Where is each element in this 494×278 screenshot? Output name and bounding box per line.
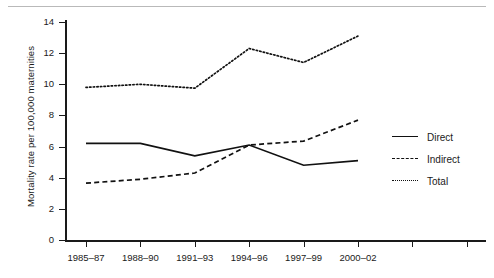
dashed-line-icon [392,154,418,164]
series-line-total [86,36,358,88]
chart-figure: Mortality rate per 100,000 maternities 0… [0,0,494,278]
legend-item-direct[interactable]: Direct [392,126,492,148]
chart-legend: DirectIndirectTotal [392,126,492,192]
solid-line-icon [392,132,418,142]
legend-item-label: Direct [427,132,453,143]
legend-item-label: Total [427,176,448,187]
dotted-line-icon [392,176,418,186]
legend-item-label: Indirect [427,154,460,165]
series-line-indirect [86,120,358,183]
series-line-direct [86,143,358,165]
legend-item-indirect[interactable]: Indirect [392,148,492,170]
legend-item-total[interactable]: Total [392,170,492,192]
